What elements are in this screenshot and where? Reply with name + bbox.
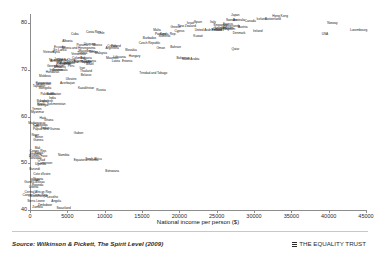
- data-point-label: Mongolia: [39, 87, 52, 90]
- data-point-label: Russia: [96, 90, 105, 93]
- source-note: Source: Wilkinson & Pickett, The Spirit …: [12, 240, 163, 248]
- data-point-label: Namibia: [58, 154, 69, 157]
- data-point-label: Qatar: [231, 48, 239, 51]
- y-tick-mark: [28, 117, 31, 118]
- data-point-label: Luxembourg: [350, 29, 367, 32]
- data-point-label: Gabon: [74, 133, 83, 136]
- brand-lockup: THE EQUALITY TRUST: [292, 240, 366, 248]
- data-point-label: Vietnam: [43, 51, 54, 54]
- brand-label: THE EQUALITY TRUST: [299, 240, 366, 248]
- x-axis-title: National income per person ($): [30, 219, 366, 226]
- data-point-label: Estonia: [122, 60, 132, 63]
- data-point-label: Central African Rep.: [24, 191, 52, 194]
- data-point-label: Guinea-Bissau: [24, 181, 44, 184]
- x-axis-line: [30, 210, 366, 211]
- data-point-label: Moldova: [39, 76, 51, 79]
- data-point-label: Bahrain: [170, 46, 181, 49]
- chart-figure: 4050607080 05000100001500020000250003000…: [0, 0, 376, 259]
- data-point-label: Ireland: [253, 30, 262, 33]
- data-point-label: Burundi: [29, 169, 40, 172]
- data-point-label: Uganda: [35, 163, 46, 166]
- data-point-label: Canada: [245, 21, 256, 24]
- data-point-label: Croatia: [107, 45, 117, 48]
- y-tick-mark: [28, 23, 31, 24]
- data-point-label: Switzerland: [265, 18, 281, 21]
- data-point-label: Equatorial Guinea: [74, 160, 99, 163]
- y-tick-label: 50: [21, 160, 27, 166]
- data-point-label: Iran: [80, 67, 85, 70]
- y-tick-label: 60: [21, 114, 27, 120]
- data-point-label: Norway: [327, 23, 338, 26]
- data-point-label: Chile: [97, 32, 104, 35]
- data-point-label: Trinidad and Tobago: [139, 72, 167, 75]
- data-point-label: Oman: [156, 47, 164, 50]
- data-point-label: Swaziland: [57, 207, 71, 210]
- data-point-label: Mauritius: [106, 57, 118, 60]
- data-point-label: Denmark: [233, 32, 246, 35]
- data-point-label: Serbia: [89, 51, 98, 54]
- data-point-label: Botswana: [105, 170, 119, 173]
- y-tick-mark: [28, 163, 31, 164]
- data-point-label: Myanmar: [31, 111, 44, 114]
- data-point-label: Laos: [40, 100, 47, 103]
- y-tick-mark: [28, 70, 31, 71]
- data-point-label: El Salvador: [59, 62, 75, 65]
- y-tick-label: 70: [21, 67, 27, 73]
- data-point-label: Bahamas: [177, 57, 190, 60]
- data-point-label: Turkmenistan: [47, 103, 66, 106]
- grid-bars-icon: [292, 242, 297, 247]
- data-point-label: Bhutan: [51, 93, 61, 96]
- data-point-label: USA: [322, 34, 328, 37]
- data-point-label: Azerbaijan: [60, 82, 75, 85]
- data-point-label: Benin: [35, 136, 43, 139]
- data-point-label: Chad: [37, 160, 44, 163]
- data-point-label: Korea, Rep.: [160, 33, 176, 36]
- data-point-label: Kuwait: [193, 35, 202, 38]
- data-point-label: Barbados: [143, 37, 156, 40]
- data-point-label: Zimbabwe: [38, 204, 52, 207]
- data-point-label: Albania: [62, 41, 72, 44]
- data-point-label: Liberia: [29, 186, 38, 189]
- data-point-label: Czech Republic: [139, 42, 161, 45]
- data-point-label: Haiti: [40, 117, 46, 120]
- y-tick-label: 40: [21, 207, 27, 213]
- data-point-label: Angola: [51, 200, 61, 203]
- data-point-label: Belarus: [81, 74, 91, 77]
- data-point-label: Honduras: [46, 71, 59, 74]
- data-point-label: Togo: [33, 125, 40, 128]
- footer-divider: [12, 231, 368, 232]
- data-point-label: Sierra Leone: [27, 200, 45, 203]
- y-tick-label: 80: [21, 20, 27, 26]
- data-point-label: Cote d'Ivoire: [33, 174, 50, 177]
- data-point-label: Cuba: [71, 33, 78, 36]
- data-point-label: United Arab Emirates: [195, 30, 224, 33]
- data-point-label: Slovakia: [125, 50, 137, 53]
- data-point-label: Kazakhstan: [78, 87, 94, 90]
- data-point-label: Austria: [238, 26, 248, 29]
- data-point-label: Mali: [35, 147, 41, 150]
